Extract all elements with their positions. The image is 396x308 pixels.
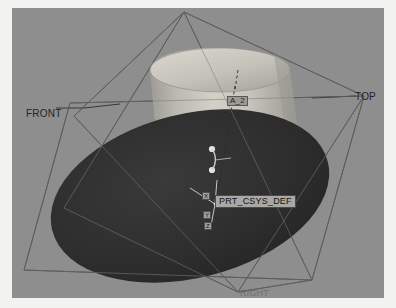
datum-plane-label-front[interactable]: FRONT [26,109,61,119]
model-viewport[interactable]: FRONT TOP RIGHT A_2 PRT_CSYS_DEF X Y Z [12,8,384,298]
csys-axis-label-y: Y [203,211,211,219]
cad-screenshot-root: FRONT TOP RIGHT A_2 PRT_CSYS_DEF X Y Z [0,0,396,308]
csys-axis-label-z: Z [204,222,212,230]
datum-plane-label-top[interactable]: TOP [355,92,376,102]
datum-axis-label-a2[interactable]: A_2 [227,96,248,106]
model-graphics [12,8,384,298]
csys-axis-label-x: X [202,192,210,200]
base-disk-solid[interactable] [32,82,347,298]
front-label-leader-2 [84,104,120,108]
datum-plane-label-right[interactable]: RIGHT [240,289,269,298]
coordinate-system-label[interactable]: PRT_CSYS_DEF [215,195,296,208]
